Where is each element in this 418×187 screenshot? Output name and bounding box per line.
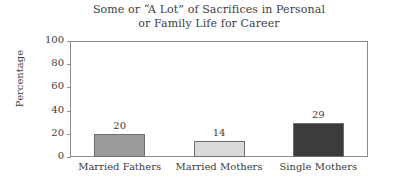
y-tick-label: 60 <box>51 80 64 91</box>
x-axis-label-0: Married Fathers <box>65 161 175 173</box>
y-tick-label: 40 <box>51 104 64 115</box>
bar-chart: Some or “A Lot” of Sacrifices in Persona… <box>0 0 418 187</box>
y-tick-mark <box>67 134 71 135</box>
y-tick-mark <box>67 87 71 88</box>
y-tick-label: 80 <box>51 57 64 68</box>
bar-0 <box>94 134 145 157</box>
y-tick-label: 20 <box>51 127 64 138</box>
y-axis-title: Percentage <box>14 39 25 119</box>
x-axis-label-1: Married Mothers <box>164 161 274 173</box>
y-tick-label: 0 <box>58 150 64 161</box>
chart-title-line-2: or Family Life for Career <box>0 17 418 31</box>
chart-title-line-1: Some or “A Lot” of Sacrifices in Persona… <box>0 3 418 17</box>
bar-value-label-0: 20 <box>90 120 150 131</box>
y-tick-mark <box>67 111 71 112</box>
y-tick-label: 100 <box>45 34 64 45</box>
bar-2 <box>293 123 344 157</box>
bar-value-label-1: 14 <box>189 127 249 138</box>
bar-value-label-2: 29 <box>288 109 348 120</box>
y-tick-mark <box>67 157 71 158</box>
chart-title: Some or “A Lot” of Sacrifices in Persona… <box>0 3 418 31</box>
x-axis-label-2: Single Mothers <box>263 161 373 173</box>
bar-1 <box>194 141 245 157</box>
y-tick-mark <box>67 64 71 65</box>
y-tick-mark <box>67 41 71 42</box>
